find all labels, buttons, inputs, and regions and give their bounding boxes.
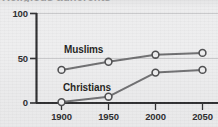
- y-tick-label-100: 100: [0, 8, 28, 19]
- series-label-christians: Christians: [63, 82, 111, 93]
- data-point-christians-2050: [199, 67, 206, 74]
- data-point-muslims-1900: [58, 67, 65, 74]
- y-tick-label-50: 50: [0, 53, 28, 64]
- x-tick-label-2050: 2050: [188, 111, 217, 122]
- data-point-muslims-2050: [199, 50, 206, 57]
- data-point-christians-1950: [105, 93, 112, 100]
- data-point-muslims-2000: [152, 51, 159, 58]
- series-label-muslims: Muslims: [64, 44, 103, 55]
- chart-figure: Religious adherents: [0, 0, 218, 127]
- x-tick-label-1950: 1950: [94, 111, 123, 122]
- y-axis: [30, 13, 37, 103]
- y-tick-label-0: 0: [0, 97, 28, 108]
- data-point-christians-2000: [152, 69, 159, 76]
- x-tick-label-1900: 1900: [47, 111, 76, 122]
- x-tick-label-2000: 2000: [141, 111, 170, 122]
- line-chart-plot: [0, 0, 218, 127]
- data-point-christians-1900: [58, 99, 65, 106]
- data-point-muslims-1950: [105, 58, 112, 65]
